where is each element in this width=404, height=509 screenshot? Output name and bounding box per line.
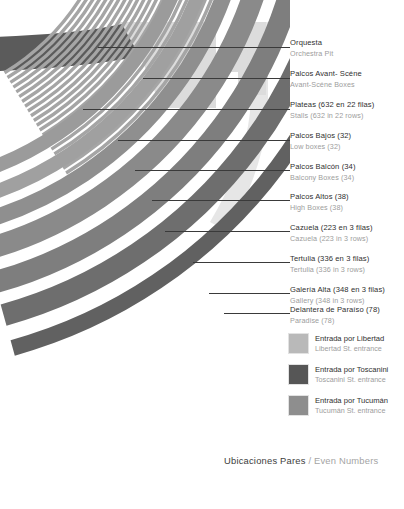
callout-label-es: Palcos Altos (38) <box>290 192 404 201</box>
callout-6[interactable]: Cazuela (223 en 3 filas)Cazuela (223 in … <box>290 223 404 243</box>
callout-leader-line-0 <box>98 47 288 48</box>
legend-row-0[interactable]: Entrada por LibertadLibertad St. entranc… <box>288 331 404 356</box>
callout-leader-line-5 <box>152 200 288 201</box>
callout-label-es: Plateas (632 en 22 filas) <box>290 100 404 109</box>
callout-tick-7 <box>282 262 290 263</box>
callout-0[interactable]: OrquestaOrchestra Pit <box>290 38 404 58</box>
footer-caption: Ubicaciones Pares / Even Numbers <box>224 455 378 466</box>
callout-leader-line-8 <box>209 293 288 294</box>
callout-leader-line-3 <box>118 140 288 141</box>
callout-label-es: Delantera de Paraíso (78) <box>290 305 404 314</box>
legend-row-1[interactable]: Entrada por ToscaniniToscanini St. entra… <box>288 362 404 387</box>
callout-label-en: Gallery (348 in 3 rows) <box>290 296 404 305</box>
callout-label-en: Orchestra Pit <box>290 49 404 58</box>
legend-label-es: Entrada por Tucumán <box>315 396 388 405</box>
footer-spanish: Ubicaciones Pares <box>224 455 306 466</box>
callout-label-es: Galería Alta (348 en 3 filas) <box>290 285 404 294</box>
callout-label-en: Paradise (78) <box>290 316 404 325</box>
footer-english: Even Numbers <box>314 455 378 466</box>
callout-tick-8 <box>282 293 290 294</box>
callout-tick-5 <box>282 200 290 201</box>
callout-tick-1 <box>282 78 290 79</box>
callout-label-es: Tertulia (336 en 3 filas) <box>290 254 404 263</box>
callout-label-en: Cazuela (223 in 3 rows) <box>290 234 404 243</box>
callout-label-es: Palcos Bajos (32) <box>290 131 404 140</box>
callout-label-en: High Boxes (38) <box>290 203 404 212</box>
legend-row-2[interactable]: Entrada por TucumánTucumán St. entrance <box>288 393 404 418</box>
callout-leader-line-1 <box>143 78 288 79</box>
entrances-legend: Entrada por LibertadLibertad St. entranc… <box>288 331 404 424</box>
legend-label-es: Entrada por Libertad <box>315 334 384 343</box>
callout-tick-3 <box>282 140 290 141</box>
callout-7[interactable]: Tertulia (336 en 3 filas)Tertulia (336 i… <box>290 254 404 274</box>
legend-swatch-libertad <box>288 333 309 354</box>
callout-9[interactable]: Delantera de Paraíso (78)Paradise (78) <box>290 305 404 325</box>
callout-tick-9 <box>282 313 290 314</box>
legend-label-en: Libertad St. entrance <box>315 344 384 353</box>
callout-label-en: Avant-Scéne Boxes <box>290 80 404 89</box>
callout-label-es: Orquesta <box>290 38 404 47</box>
callout-label-en: Low boxes (32) <box>290 142 404 151</box>
callout-4[interactable]: Palcos Balcón (34)Balcony Boxes (34) <box>290 162 404 182</box>
callout-label-en: Tertulia (336 in 3 rows) <box>290 265 404 274</box>
seating-plan-page: OrquestaOrchestra PitPalcos Avant- Scéne… <box>0 0 404 509</box>
callout-leader-line-9 <box>224 313 288 314</box>
callout-2[interactable]: Plateas (632 en 22 filas)Stalls (632 in … <box>290 100 404 120</box>
callout-tick-6 <box>282 231 290 232</box>
callout-leader-line-4 <box>135 170 288 171</box>
callout-label-es: Cazuela (223 en 3 filas) <box>290 223 404 232</box>
legend-swatch-toscanini <box>288 364 309 385</box>
callout-label-es: Palcos Balcón (34) <box>290 162 404 171</box>
callout-label-es: Palcos Avant- Scéne <box>290 69 404 78</box>
callout-label-en: Stalls (632 in 22 rows) <box>290 111 404 120</box>
callout-1[interactable]: Palcos Avant- ScéneAvant-Scéne Boxes <box>290 69 404 89</box>
legend-label-en: Toscanini St. entrance <box>315 375 388 384</box>
theatre-seating-diagram[interactable] <box>0 0 290 509</box>
legend-swatch-tucuman <box>288 395 309 416</box>
callout-leader-line-6 <box>165 231 288 232</box>
callout-leader-line-7 <box>193 262 288 263</box>
footer-separator: / <box>306 455 314 466</box>
callout-8[interactable]: Galería Alta (348 en 3 filas)Gallery (34… <box>290 285 404 305</box>
callout-tick-0 <box>282 47 290 48</box>
callout-tick-4 <box>282 170 290 171</box>
callout-leader-line-2 <box>83 109 288 110</box>
legend-label-en: Tucumán St. entrance <box>315 406 388 415</box>
callout-tick-2 <box>282 109 290 110</box>
callout-5[interactable]: Palcos Altos (38)High Boxes (38) <box>290 192 404 212</box>
callout-label-en: Balcony Boxes (34) <box>290 173 404 182</box>
legend-label-es: Entrada por Toscanini <box>315 365 388 374</box>
callout-3[interactable]: Palcos Bajos (32)Low boxes (32) <box>290 131 404 151</box>
